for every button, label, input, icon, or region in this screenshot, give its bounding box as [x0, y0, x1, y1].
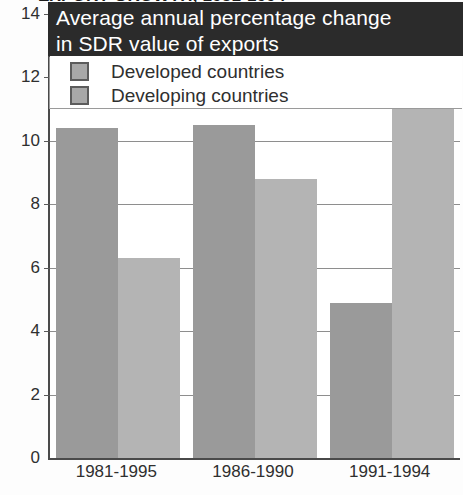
bar-developed-countries-1986-1990	[193, 125, 255, 458]
y-axis-tick-label: 0	[4, 449, 40, 466]
chart-legend: Developed countriesDeveloping countries	[49, 57, 462, 109]
legend-swatch-developing	[70, 86, 89, 105]
y-axis-tick-label: 10	[4, 132, 40, 149]
y-axis-tick-label: 12	[4, 68, 40, 85]
legend-swatch-developed	[70, 62, 89, 81]
legend-label-developed: Developed countries	[111, 61, 284, 82]
y-axis-tick-label: 2	[4, 386, 40, 403]
y-axis-tick	[44, 331, 50, 332]
bar-developing-countries-1986-1990	[255, 179, 317, 458]
x-axis-tick-label: 1991-1994	[321, 462, 458, 481]
y-axis-tick	[44, 395, 50, 396]
chart-figure: EXPORT GROWTH, 1981-1994 02468101214 198…	[0, 0, 463, 495]
chart-title-box: Average annual percentage change in SDR …	[48, 2, 463, 56]
y-axis-tick	[44, 204, 50, 205]
chart-title-line-2: in SDR value of exports	[56, 31, 463, 57]
bar-developing-countries-1991-1994	[392, 71, 454, 458]
y-axis-tick-label: 14	[4, 5, 40, 22]
legend-label-developing: Developing countries	[111, 85, 288, 106]
y-axis-tick-label: 8	[4, 195, 40, 212]
y-axis-tick	[44, 268, 50, 269]
chart-title-line-1: Average annual percentage change	[56, 5, 463, 31]
bar-developed-countries-1991-1994	[330, 303, 392, 458]
legend-item-developing: Developing countries	[70, 84, 288, 106]
x-axis-tick-label: 1981-1995	[48, 462, 185, 481]
y-axis-tick	[44, 141, 50, 142]
x-axis-tick-label: 1986-1990	[185, 462, 322, 481]
bar-developed-countries-1981-1995	[56, 128, 118, 458]
bar-developing-countries-1981-1995	[118, 258, 180, 458]
y-axis-tick-label: 6	[4, 259, 40, 276]
legend-item-developed: Developed countries	[70, 60, 284, 82]
y-axis-tick-label: 4	[4, 322, 40, 339]
